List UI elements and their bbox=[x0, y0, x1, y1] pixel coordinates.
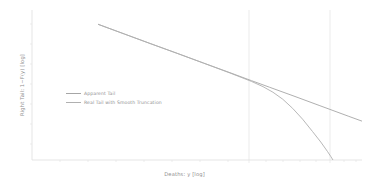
legend-swatch-icon bbox=[66, 93, 81, 94]
y-axis-label: Right Tail: 1−F(y) [log] bbox=[19, 0, 25, 180]
legend-label: Apparent Tail bbox=[84, 90, 115, 97]
chart-legend: Apparent Tail Real Tail with Smooth Trun… bbox=[66, 90, 162, 106]
legend-entry-apparent-tail: Apparent Tail bbox=[66, 90, 162, 97]
legend-entry-real-tail: Real Tail with Smooth Truncation bbox=[66, 99, 162, 106]
legend-label: Real Tail with Smooth Truncation bbox=[84, 99, 162, 106]
legend-swatch-icon bbox=[66, 102, 81, 103]
chart-figure: Deaths: y [log] Right Tail: 1−F(y) [log]… bbox=[0, 0, 369, 190]
